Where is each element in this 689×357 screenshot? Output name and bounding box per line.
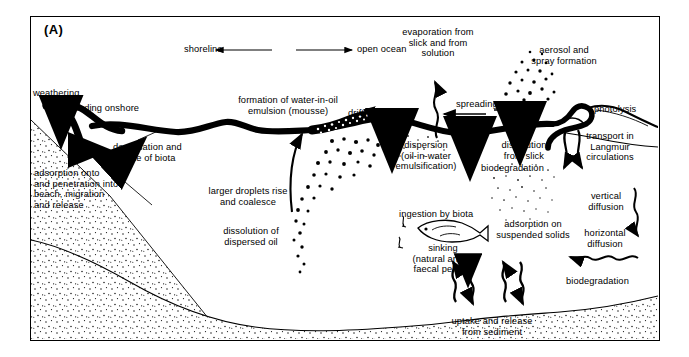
label-photolysis: photolysis bbox=[594, 104, 636, 115]
label-evaporation: evaporation from slick and from solution bbox=[388, 27, 488, 59]
label-drifting: drifting bbox=[348, 108, 377, 119]
label-biodegradation-mid: biodegradation bbox=[481, 163, 544, 174]
label-adsorption-solids: adsorption on suspended solids bbox=[484, 219, 582, 240]
label-spreading: spreading bbox=[456, 99, 498, 110]
label-adsorption-beach: adsorption onto and penetration into bea… bbox=[34, 168, 118, 210]
label-shoreline: shoreline bbox=[184, 44, 223, 55]
label-aerosol: aerosol and spray formation bbox=[519, 45, 609, 66]
label-horizontal-diffusion: horizontal diffusion bbox=[572, 228, 638, 249]
label-sinking: sinking (natural and in faecal pellets) bbox=[391, 243, 495, 275]
label-weathering: weathering bbox=[33, 88, 79, 99]
label-ingestion: ingestion by biota bbox=[399, 209, 473, 220]
label-dissolution-slick: dissolution from slick bbox=[488, 140, 560, 161]
label-degradation-uptake: degradation and uptake of biota bbox=[113, 142, 182, 163]
label-vertical-diffusion: vertical diffusion bbox=[578, 191, 634, 212]
label-langmuir: transport in Langmuir circulations bbox=[573, 131, 647, 163]
label-larger-droplets: larger droplets rise and coalesce bbox=[198, 186, 298, 207]
fish-icon bbox=[418, 220, 488, 242]
label-stranding-onshore: stranding onshore bbox=[63, 103, 139, 114]
label-emulsion: formation of water-in-oil emulsion (mous… bbox=[218, 95, 358, 116]
figure-panel: (A) bbox=[0, 0, 689, 357]
label-uptake-sediment: uptake and release from sediment bbox=[434, 316, 550, 337]
label-dissolution-dispersed: dissolution of dispersed oil bbox=[208, 226, 294, 247]
label-dispersion: dispersion (oil-in-water emulsification) bbox=[382, 140, 470, 172]
label-biodegradation-bottom: biodegradation bbox=[566, 276, 629, 287]
